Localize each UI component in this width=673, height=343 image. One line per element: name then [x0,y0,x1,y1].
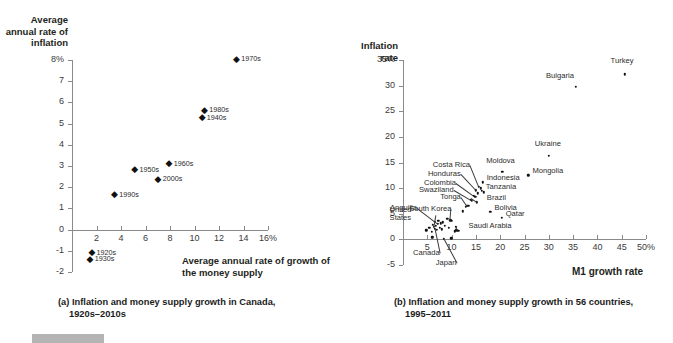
panel-a-chart: 8%76543210-1-2246810121416%◆1970s◆1980s◆… [0,0,340,343]
x-axis-tick [549,235,550,239]
y-axis-tick-label: -2 [32,266,64,276]
y-axis-line [403,60,404,265]
y-axis-tick [399,111,403,112]
data-point-label: 1960s [174,159,194,168]
y-axis-title-a-text: Average annual rate of inflation [6,14,68,48]
x-axis-tick [146,226,147,230]
y-axis-tick [399,60,403,61]
x-axis-tick [268,226,269,230]
y-axis-tick-label: 1 [32,202,64,212]
x-axis-tick-label: 50% [626,242,666,252]
caption-b-line1: (b) Inflation and money supply growth in… [394,297,633,307]
y-axis-tick [68,145,72,146]
y-axis-tick-label: 7 [32,75,64,85]
data-point [430,230,432,232]
x-axis-tick [597,235,598,239]
page-footer-bar [32,334,104,343]
data-point-label: Tonga [440,192,461,201]
data-point [489,210,491,212]
y-axis-tick [68,230,72,231]
data-point [441,228,443,230]
diamond-marker-icon: ◆ [233,56,240,62]
data-point [462,210,464,212]
x-axis-tick [244,226,245,230]
x-axis-tick [573,235,574,239]
data-point-label: Saudi Arabia [468,221,511,230]
y-axis-tick-label: -1 [32,245,64,255]
data-point [428,227,430,229]
caption-a-line2: 1920s–2010s [58,308,326,320]
x-axis-tick [500,235,501,239]
x-axis-tick-label: 16% [248,233,288,243]
data-point [442,221,444,223]
data-point-label: Turkey [611,56,634,65]
data-point [444,224,446,226]
data-point [425,229,427,231]
data-point-label: United States [390,206,424,222]
y-axis-tick-label: 10 [363,182,395,192]
x-axis-line [72,230,268,231]
caption-b-line2: 1995–2011 [394,308,673,320]
data-point-label: Tanzania [486,182,516,191]
data-point-label: Honduras [428,169,461,178]
y-axis-tick [68,272,72,273]
x-axis-tick [525,235,526,239]
y-axis-tick [68,187,72,188]
data-point-label: Costa Rica [433,160,470,169]
x-axis-tick [170,226,171,230]
x-axis-tick [646,235,647,239]
data-point-label: Brazil [487,193,506,202]
diamond-marker-icon: ◆ [111,191,118,197]
data-point [436,228,438,230]
y-axis-tick-label: 15 [363,157,395,167]
data-point-label: 1950s [139,165,159,174]
data-point [457,229,459,231]
x-axis-tick [195,226,196,230]
diamond-marker-icon: ◆ [131,166,138,172]
y-axis-tick [399,163,403,164]
data-point [477,192,479,194]
y-axis-tick-label: 4 [32,139,64,149]
x-axis-title-b-text: M1 growth rate [572,266,643,277]
data-point-label: 1990s [119,190,139,199]
y-axis-tick-label: 8% [32,54,64,64]
y-axis-tick [68,60,72,61]
y-axis-tick-label: 20 [363,131,395,141]
diamond-marker-icon: ◆ [155,176,162,182]
data-point [447,227,449,229]
caption-a-line1: (a) Inflation and money supply growth in… [58,297,275,307]
diamond-marker-icon: ◆ [199,114,206,120]
y-axis-tick [68,102,72,103]
x-axis-title-a: Average annual rate of growth of the mon… [182,255,332,278]
data-point [482,191,484,193]
data-point [575,85,577,87]
data-point-label: Ukraine [535,139,561,148]
data-point-label: Canada [413,248,440,257]
x-axis-tick [121,226,122,230]
x-axis-line [403,239,646,240]
y-axis-tick-label: 30 [363,80,395,90]
y-axis-tick [399,86,403,87]
y-axis-tick-label: 6 [32,96,64,106]
x-axis-tick [219,226,220,230]
y-axis-tick [68,124,72,125]
y-axis-tick-label: 0 [32,224,64,234]
x-axis-tick [476,235,477,239]
data-point-label: Mongolia [532,166,563,175]
y-axis-tick-label: 2 [32,181,64,191]
data-point [527,174,529,176]
data-point-label: Moldova [486,156,515,165]
y-axis-tick [399,137,403,138]
data-point [548,155,550,157]
y-axis-tick-label: 5 [32,118,64,128]
y-axis-line [72,60,73,272]
y-axis-tick [399,265,403,266]
y-axis-tick-label: 0 [363,233,395,243]
y-axis-tick [399,188,403,189]
data-point-label: Qatar [506,209,525,218]
data-point [431,236,433,238]
y-axis-tick [399,239,403,240]
data-point-label: Bulgaria [546,71,574,80]
x-axis-tick [622,235,623,239]
data-point [500,217,502,219]
